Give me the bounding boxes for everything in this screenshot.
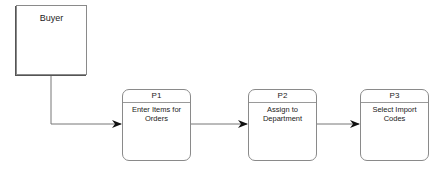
- process-p2[interactable]: P2 Assign to Department: [248, 89, 317, 161]
- process-p3[interactable]: P3 Select Import Codes: [360, 89, 429, 161]
- entity-label: Buyer: [17, 13, 86, 23]
- process-name: Enter Items for Orders: [123, 103, 190, 123]
- external-entity-buyer[interactable]: Buyer: [16, 5, 87, 75]
- process-id: P1: [123, 90, 190, 103]
- process-id: P3: [361, 90, 428, 103]
- process-name: Select Import Codes: [361, 103, 428, 123]
- process-name: Assign to Department: [249, 103, 316, 123]
- process-p1[interactable]: P1 Enter Items for Orders: [122, 89, 191, 161]
- process-id: P2: [249, 90, 316, 103]
- flow-buyer-to-p1: [51, 74, 121, 124]
